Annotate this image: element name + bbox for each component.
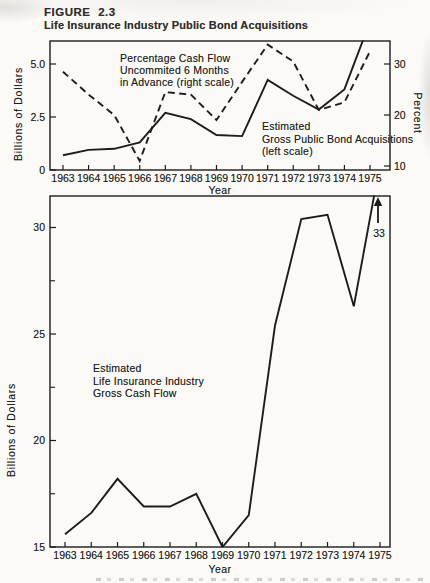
annotation-line: Gross Cash Flow [93, 387, 204, 400]
y-tick-label: 0 [39, 164, 45, 176]
y-tick-label: 2.5 [30, 111, 45, 123]
figure-page: 1963196419651966196719681969197019711972… [0, 0, 430, 583]
annotation-line: Estimated [262, 120, 413, 133]
annotation-line: Estimated [93, 362, 204, 375]
x-tick-label: 1966 [128, 172, 152, 184]
top-chart-left-axis-title: Billions of Dollars [12, 67, 24, 161]
annotation-percentage-cash-flow: Percentage Cash Flow Uncommited 6 Months… [120, 53, 234, 88]
x-tick-label: 1974 [342, 549, 366, 561]
annotation-gross-public-bond-acquisitions: Estimated Gross Public Bond Acquisitions… [262, 120, 413, 158]
x-tick-label: 1970 [237, 549, 261, 561]
y-right-tick-label: 10 [394, 160, 406, 172]
x-tick-label: 1966 [132, 549, 156, 561]
y-right-tick-label: 20 [394, 109, 406, 121]
bottom-chart-x-axis-title: Year [50, 563, 390, 575]
figure-title: Life Insurance Industry Public Bond Acqu… [44, 19, 308, 31]
estimated-life-insurance-industry-gross-cash-flow-line [65, 164, 380, 547]
x-tick-label: 1965 [106, 549, 130, 561]
x-tick-label: 1971 [256, 172, 280, 184]
top-chart-x-axis-title: Year [50, 184, 390, 196]
y-tick-label: 30 [33, 221, 45, 233]
x-tick-label: 1975 [368, 549, 392, 561]
y-tick-label: 25 [33, 328, 45, 340]
annotation-line: Gross Public Bond Acquisitions [262, 133, 413, 146]
cropped-caption-remnant [96, 578, 424, 581]
annotation-line: Life Insurance Industry [93, 375, 204, 388]
x-tick-label: 1967 [154, 172, 178, 184]
x-tick-label: 1972 [290, 549, 314, 561]
x-tick-label: 1975 [358, 172, 382, 184]
bottom-chart-left-axis-title: Billions of Dollars [5, 383, 17, 477]
y-tick-label: 5.0 [30, 58, 45, 70]
x-tick-label: 1969 [205, 172, 229, 184]
x-tick-label: 1972 [282, 172, 306, 184]
annotation-gross-cash-flow: Estimated Life Insurance Industry Gross … [93, 362, 204, 400]
x-tick-label: 1967 [158, 549, 182, 561]
x-tick-label: 1968 [179, 172, 203, 184]
top-chart-right-axis-title: Percent [412, 92, 424, 133]
x-tick-label: 1973 [316, 549, 340, 561]
x-tick-label: 1963 [51, 172, 75, 184]
x-tick-label: 1964 [77, 172, 101, 184]
offscale-value-label: 33 [373, 227, 385, 239]
annotation-line: (left scale) [262, 145, 413, 158]
x-tick-label: 1971 [263, 549, 287, 561]
x-tick-label: 1970 [230, 172, 254, 184]
y-tick-label: 15 [33, 541, 45, 553]
offscale-arrow-head [374, 197, 382, 206]
top-chart: 1963196419651966196719681969197019711972… [30, 22, 405, 184]
figure-number: FIGURE 2.3 [44, 6, 116, 18]
x-tick-label: 1965 [102, 172, 126, 184]
y-right-tick-label: 30 [394, 58, 406, 70]
bottom-chart: 1963196419651966196719681969197019711972… [33, 164, 392, 561]
x-tick-label: 1968 [185, 549, 209, 561]
x-tick-label: 1963 [53, 549, 77, 561]
y-tick-label: 20 [33, 434, 45, 446]
x-tick-label: 1973 [307, 172, 331, 184]
annotation-line: Uncommited 6 Months [120, 65, 234, 77]
x-tick-label: 1974 [333, 172, 357, 184]
annotation-line: in Advance (right scale) [120, 77, 234, 89]
x-tick-label: 1964 [80, 549, 104, 561]
x-tick-label: 1969 [211, 549, 235, 561]
